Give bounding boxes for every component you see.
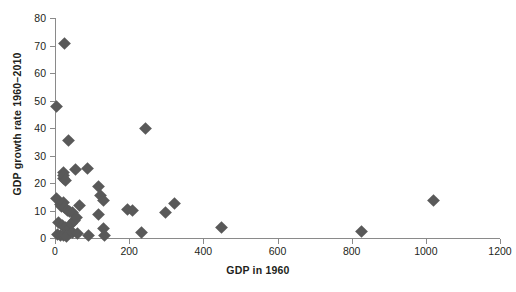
y-tick-label: 30 (0, 151, 46, 162)
y-tick-label: 50 (0, 96, 46, 107)
x-tick-label: 0 (25, 246, 85, 257)
data-point (82, 229, 95, 242)
x-tick-label: 600 (248, 246, 308, 257)
x-tick-label: 800 (322, 246, 382, 257)
plot-area (55, 18, 500, 238)
y-axis-title: GDP growth rate 1960–2010 (11, 19, 23, 229)
data-point (58, 37, 71, 50)
data-point (62, 135, 75, 148)
y-tick-label: 20 (0, 178, 46, 189)
y-tick-label: 10 (0, 206, 46, 217)
x-tick-label: 1200 (470, 246, 516, 257)
x-tick (129, 239, 130, 244)
x-tick (352, 239, 353, 244)
x-tick (426, 239, 427, 244)
x-tick-label: 1000 (396, 246, 456, 257)
data-point (215, 221, 228, 234)
x-axis-title: GDP in 1960 (0, 264, 516, 276)
x-tick (500, 239, 501, 244)
data-point (69, 163, 82, 176)
scatter-chart: 01020304050607080 020040060080010001200 … (0, 0, 516, 292)
y-tick-label: 70 (0, 41, 46, 52)
x-tick-label: 400 (173, 246, 233, 257)
x-tick (278, 239, 279, 244)
data-point (159, 206, 172, 219)
x-tick-label: 200 (99, 246, 159, 257)
y-tick-label: 60 (0, 68, 46, 79)
data-point (50, 100, 63, 113)
data-point (355, 225, 368, 238)
y-tick-label: 80 (0, 13, 46, 24)
data-point (81, 162, 94, 175)
x-tick (203, 239, 204, 244)
y-tick-label: 0 (0, 233, 46, 244)
data-point (168, 198, 181, 211)
y-tick-label: 40 (0, 123, 46, 134)
data-point (427, 195, 440, 208)
data-point (135, 226, 148, 239)
data-point (139, 122, 152, 135)
data-point (92, 208, 105, 221)
